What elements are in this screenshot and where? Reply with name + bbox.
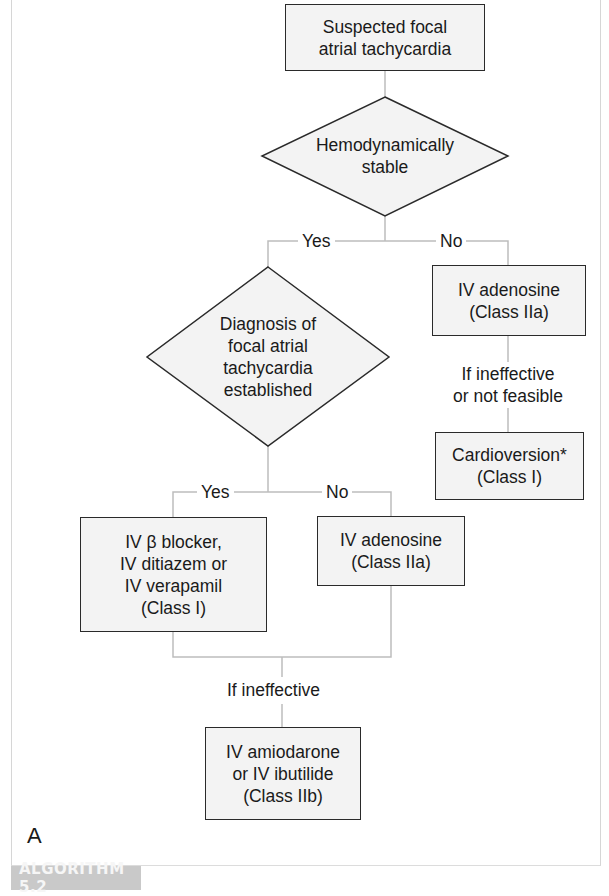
amiodarone-box: IV amiodarone or IV ibutilide (Class IIb… xyxy=(205,727,361,820)
beta-blocker-box: IV β blocker, IV ditiazem or IV verapami… xyxy=(80,517,267,632)
decision-stable-label: Hemodynamically stable xyxy=(282,126,488,186)
edge-label-stable-no: No xyxy=(436,230,466,252)
decision-diagnosis-label: Diagnosis of focal atrial tachycardia es… xyxy=(178,310,358,404)
panel-letter: A xyxy=(27,823,42,849)
stable-adenosine-box: IV adenosine (Class IIa) xyxy=(317,516,465,586)
edge-label-diagnosis-no: No xyxy=(322,481,352,503)
start-box: Suspected focal atrial tachycardia xyxy=(285,4,485,71)
edge-label-diagnosis-yes: Yes xyxy=(197,481,234,503)
cardioversion-box: Cardioversion* (Class I) xyxy=(435,432,584,500)
edge-label-stable-yes: Yes xyxy=(298,230,335,252)
unstable-condition-label: If ineffective or not feasible xyxy=(425,362,591,408)
unstable-adenosine-box: IV adenosine (Class IIa) xyxy=(432,265,586,336)
algorithm-caption-tag: ALGORITHM 5.2 xyxy=(11,866,141,890)
algorithm-caption-text: ALGORITHM 5.2 xyxy=(19,860,141,896)
merge-condition-label: If ineffective xyxy=(223,679,324,701)
